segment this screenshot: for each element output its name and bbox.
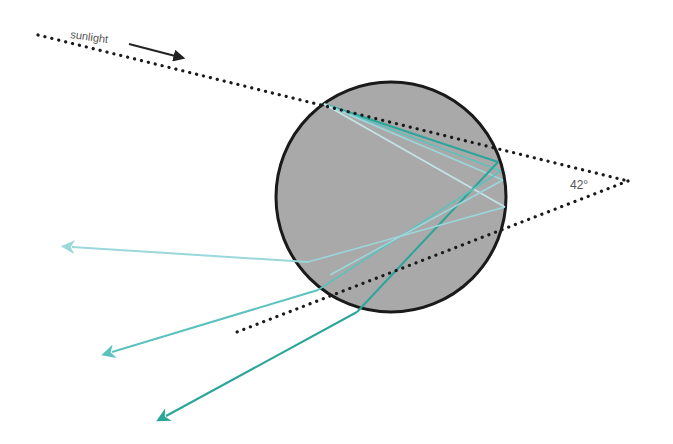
sunlight-label: sunlight xyxy=(70,28,109,45)
exit-ray-mid xyxy=(112,290,318,352)
sunlight-arrow-icon xyxy=(129,44,183,58)
angle-label: 42° xyxy=(570,178,588,192)
exit-ray-light xyxy=(72,247,308,262)
rainbow-diagram: sunlight 42° xyxy=(0,0,673,444)
